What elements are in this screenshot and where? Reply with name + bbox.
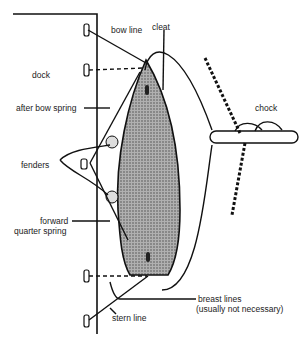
label-after-bow-spring: after bow spring (16, 103, 76, 113)
cleat-pointer (163, 30, 164, 90)
label-quarter-spring: quarter spring (14, 226, 66, 236)
label-bow-line: bow line (111, 25, 142, 35)
label-breast-lines-note: (usually not necessary) (196, 304, 283, 314)
label-chock: chock (255, 103, 277, 113)
dock-cleat-icon (81, 24, 89, 327)
label-breast-lines: breast lines (198, 294, 241, 304)
label-forward: forward (40, 216, 68, 226)
fender-icon (106, 136, 118, 203)
label-stern-line: stern line (112, 313, 147, 323)
dock-edge (13, 14, 97, 334)
label-cleat: cleat (152, 22, 170, 32)
label-fenders: fenders (21, 160, 49, 170)
label-dock: dock (32, 70, 50, 80)
breast-pointer (110, 282, 196, 299)
chock-icon (205, 58, 298, 215)
